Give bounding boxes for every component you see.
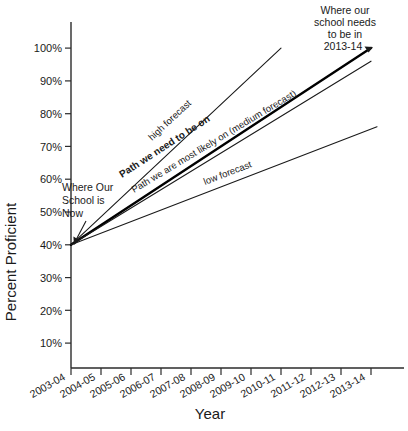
annotation-line: Where our [320,4,370,16]
y-tick-label: 80% [40,108,62,120]
series-inline-labels: high forecast Path we need to be on Path… [117,87,298,194]
y-tick-label: 100% [34,42,62,54]
x-tick-labels: 2003-04 2004-05 2005-06 2006-07 2007-08 … [28,370,368,400]
annotation-where-our-school-is-now: Where Our School is Now [62,181,114,245]
annotation-line: school needs [314,16,376,28]
y-tick-label: 50% [40,206,62,218]
annotation-line: Now [62,207,83,219]
series-line-high-forecast [71,48,281,245]
series-line-medium-forecast [71,61,371,245]
annotation-line: to be in [328,28,363,40]
chart-container: 100% 90% 80% 70% 60% 50% 40% 30% 20% 10% [0,0,408,431]
series-lines [71,48,377,245]
annotation-line: 2013-14 [324,40,363,52]
y-tick-label: 60% [40,173,62,185]
annotation-line: School is [62,194,105,206]
y-tick-label: 90% [40,75,62,87]
line-chart: 100% 90% 80% 70% 60% 50% 40% 30% 20% 10% [0,0,408,431]
series-label-low-forecast: low forecast [202,158,254,187]
y-tick-label: 70% [40,141,62,153]
x-tick-label: 2013-14 [328,370,368,400]
x-axis-title: Year [195,405,225,422]
annotation-where-our-school-needs-to-be: Where our school needs to be in 2013-14 [314,4,376,52]
y-tick-label: 40% [40,239,62,251]
y-tick-label: 10% [40,337,62,349]
y-axis-title: Percent Proficient [2,202,19,321]
axes-group [71,22,404,368]
y-tick-label: 20% [40,305,62,317]
y-tick-label: 30% [40,272,62,284]
y-tick-labels: 100% 90% 80% 70% 60% 50% 40% 30% 20% 10% [34,42,62,349]
annotation-line: Where Our [62,181,114,193]
